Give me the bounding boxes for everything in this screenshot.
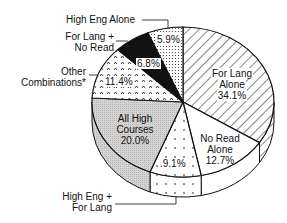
percent-other-combinations: 11.4% bbox=[104, 76, 134, 87]
label-line: Combinations* bbox=[10, 77, 86, 88]
label-line: High Eng + bbox=[54, 191, 112, 202]
label-line: No Read bbox=[60, 42, 114, 53]
label-line: Other bbox=[10, 66, 86, 77]
percent-value: 20.0% bbox=[110, 135, 160, 146]
percent-for-lang-no-read: 6.8% bbox=[136, 58, 161, 69]
label-line: Alone bbox=[195, 144, 245, 155]
pie-top bbox=[92, 27, 274, 177]
percent-value: 12.7% bbox=[195, 155, 245, 166]
label-line: Courses bbox=[110, 124, 160, 135]
label-line: No Read bbox=[195, 133, 245, 144]
label-line: For Lang bbox=[54, 202, 112, 213]
percent-high-eng-alone: 5.9% bbox=[156, 34, 181, 45]
label-line: Alone bbox=[218, 79, 246, 90]
label-line: For Lang bbox=[211, 68, 253, 79]
label-for-lang-alone: For Lang Alone 34.1% bbox=[207, 68, 257, 101]
label-high-eng-alone: High Eng Alone bbox=[66, 14, 135, 25]
label-line: For Lang + bbox=[60, 31, 114, 42]
percent-value: 34.1% bbox=[217, 90, 247, 101]
percent-high-eng-for-lang: .9.1% bbox=[159, 158, 187, 169]
label-other-combinations: Other Combinations* bbox=[10, 66, 86, 88]
label-no-read-alone: No Read Alone 12.7% bbox=[195, 133, 245, 166]
label-line: All High bbox=[110, 113, 160, 124]
pie-chart bbox=[0, 0, 287, 223]
label-all-high-courses: All High Courses 20.0% bbox=[110, 113, 160, 146]
label-high-eng-for-lang: High Eng + For Lang bbox=[54, 191, 112, 213]
label-for-lang-no-read: For Lang + No Read bbox=[60, 31, 114, 53]
